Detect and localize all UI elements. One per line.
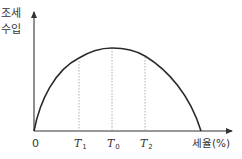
y-axis-label-line2: 수입 (1, 24, 21, 35)
x-axis-label: 세율(%) (192, 138, 230, 149)
diagram-canvas (0, 0, 242, 159)
origin-label: 0 (32, 138, 39, 149)
laffer-curve (34, 48, 201, 131)
tick-t1: T1 (74, 138, 87, 151)
tick-t0: T0 (107, 138, 120, 151)
laffer-curve-diagram: 조세 수입 0 T1 T0 T2 세율(%) (0, 0, 242, 159)
tick-t2: T2 (140, 138, 153, 151)
y-axis-label-line1: 조세 (1, 8, 21, 19)
